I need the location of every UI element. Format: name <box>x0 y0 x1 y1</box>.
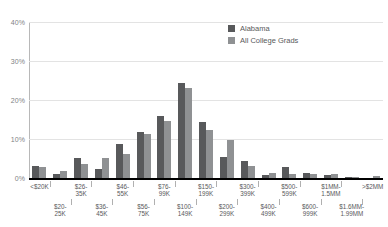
x-axis-tick-label: $56- 75K <box>133 203 154 218</box>
x-axis-tick-mark <box>362 199 363 205</box>
y-axis-tick-label: 10% <box>11 136 25 143</box>
x-axis-tick-mark <box>279 199 280 205</box>
x-axis-tick-label: $600- 999K <box>300 203 321 218</box>
bar[interactable] <box>144 134 151 178</box>
axis-baseline <box>29 178 383 180</box>
bar-group <box>237 22 258 178</box>
bar[interactable] <box>220 157 227 178</box>
bar[interactable] <box>282 167 289 178</box>
x-axis-tick-mark <box>91 181 92 187</box>
y-axis-tick-label: 0% <box>15 175 25 182</box>
bar-group <box>258 22 279 178</box>
x-axis-tick-label: $1.6MM- 1.99MM <box>341 203 362 218</box>
chart-legend: Alabama All College Grads <box>228 24 298 45</box>
x-axis-tick-mark <box>175 181 176 187</box>
bar-group <box>154 22 175 178</box>
x-axis-tick-label: $36- 45K <box>91 203 112 218</box>
x-axis-tick-label: $26- 35K <box>71 183 92 198</box>
y-axis-tick-label: 40% <box>11 19 25 26</box>
bar-group <box>71 22 92 178</box>
bar[interactable] <box>157 116 164 178</box>
legend-item-all-college-grads[interactable]: All College Grads <box>228 36 298 45</box>
bar[interactable] <box>116 144 123 178</box>
x-axis-tick-label: >$2MM <box>362 183 383 190</box>
x-axis-tick-label: $500- 599K <box>279 183 300 198</box>
bar-group <box>175 22 196 178</box>
bar[interactable] <box>345 177 352 178</box>
bar[interactable] <box>95 169 102 178</box>
bar[interactable] <box>137 132 144 178</box>
x-axis-tick-label: $400- 499K <box>258 203 279 218</box>
legend-swatch-icon <box>228 37 235 44</box>
x-axis-tick-mark <box>341 181 342 187</box>
x-axis-tick-label: $150- 199K <box>196 183 217 198</box>
bar-group <box>50 22 71 178</box>
bar[interactable] <box>352 177 359 178</box>
x-axis-tick-mark <box>196 199 197 205</box>
bar[interactable] <box>227 140 234 178</box>
bar[interactable] <box>269 173 276 178</box>
y-axis-tick-label: 20% <box>11 97 25 104</box>
x-axis-tick-label: <$20K <box>29 183 50 190</box>
x-axis-tick-mark <box>71 199 72 205</box>
y-axis-tick-label: 30% <box>11 58 25 65</box>
x-axis-tick-label: $200- 299K <box>216 203 237 218</box>
bar-group <box>91 22 112 178</box>
bar[interactable] <box>74 158 81 178</box>
bar[interactable] <box>199 122 206 178</box>
bar[interactable] <box>32 166 39 178</box>
bar-group <box>112 22 133 178</box>
x-axis-tick-label: $76- 99K <box>154 183 175 198</box>
bar-group <box>341 22 362 178</box>
x-axis-tick-mark <box>216 181 217 187</box>
x-axis-tick-label: $20- 25K <box>50 203 71 218</box>
bar[interactable] <box>53 174 60 178</box>
bar[interactable] <box>185 88 192 178</box>
bar[interactable] <box>303 173 310 178</box>
y-axis-labels: 0%10%20%30%40% <box>0 0 29 180</box>
bar[interactable] <box>60 171 67 178</box>
legend-label: All College Grads <box>240 36 298 45</box>
bar[interactable] <box>123 154 130 178</box>
bar[interactable] <box>241 161 248 178</box>
bar-group <box>321 22 342 178</box>
bar[interactable] <box>102 158 109 178</box>
bar[interactable] <box>310 174 317 178</box>
legend-item-alabama[interactable]: Alabama <box>228 24 298 33</box>
bar-group <box>29 22 50 178</box>
legend-swatch-icon <box>228 25 235 32</box>
bar-group <box>362 22 383 178</box>
x-axis-tick-label: $100- 149K <box>175 203 196 218</box>
bar[interactable] <box>81 164 88 178</box>
bar-group <box>196 22 217 178</box>
x-axis-tick-mark <box>50 181 51 187</box>
bar-group <box>133 22 154 178</box>
bar-group <box>216 22 237 178</box>
income-distribution-bar-chart: 0%10%20%30%40% Alabama All College Grads… <box>0 0 388 227</box>
bar[interactable] <box>248 166 255 178</box>
bar-group <box>279 22 300 178</box>
x-axis-tick-mark <box>237 199 238 205</box>
x-axis-tick-mark <box>321 199 322 205</box>
bar[interactable] <box>164 121 171 178</box>
bar[interactable] <box>324 175 331 178</box>
bar[interactable] <box>373 176 380 178</box>
bar[interactable] <box>39 167 46 178</box>
bar[interactable] <box>331 174 338 178</box>
x-axis-tick-label: $46- 55K <box>112 183 133 198</box>
x-axis-labels: <$20K$20- 25K$26- 35K$36- 45K$46- 55K$56… <box>29 181 383 227</box>
x-axis-tick-mark <box>258 181 259 187</box>
bar[interactable] <box>262 175 269 178</box>
bar[interactable] <box>206 130 213 178</box>
x-axis-tick-mark <box>133 181 134 187</box>
bar-group <box>300 22 321 178</box>
x-axis-tick-label: $1MM- 1.5MM <box>321 183 342 198</box>
bars-layer <box>29 22 383 178</box>
x-axis-tick-mark <box>112 199 113 205</box>
legend-label: Alabama <box>240 24 270 33</box>
bar[interactable] <box>178 83 185 178</box>
x-axis-tick-mark <box>154 199 155 205</box>
bar[interactable] <box>289 174 296 178</box>
x-axis-tick-label: $300- 399K <box>237 183 258 198</box>
x-axis-tick-mark <box>300 181 301 187</box>
